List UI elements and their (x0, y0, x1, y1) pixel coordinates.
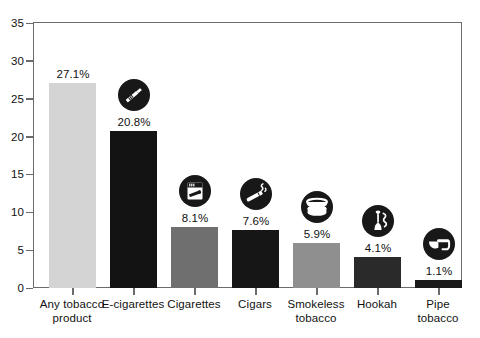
bar-value-label: 1.1% (407, 265, 471, 278)
y-axis-tick: 20 (0, 130, 33, 144)
x-axis-tick-mark (377, 288, 379, 295)
x-axis-label-line1: Hookah (357, 298, 397, 310)
bar-pipe-tobacco[interactable] (415, 280, 462, 288)
y-axis-tick-mark (26, 212, 33, 214)
smokeless-tin-icon (301, 191, 333, 223)
bar-cigars[interactable] (232, 230, 279, 288)
bar-smokeless-tobacco[interactable] (293, 243, 340, 288)
x-axis-label-pipe-tobacco: Pipetobacco (402, 297, 474, 325)
x-axis-label-line1: Any tobacco (40, 298, 104, 310)
x-axis-tick-mark (316, 288, 318, 295)
x-axis-label-line1: E-cigarettes (102, 298, 165, 310)
x-axis-label-line2: tobacco (402, 311, 474, 325)
y-axis-tick-label: 15 (11, 167, 24, 181)
x-axis-tick-mark (194, 288, 196, 295)
y-axis-tick: 5 (0, 243, 33, 257)
bar-group-any-tobacco-product: 27.1% (41, 23, 105, 288)
bar-group-cigarettes: 8.1% (163, 23, 227, 288)
bar-value-label: 27.1% (41, 68, 105, 81)
x-axis-tick-mark (72, 288, 74, 295)
bar-hookah[interactable] (354, 257, 401, 288)
x-axis-label-line1: Pipe (426, 298, 449, 310)
y-axis-tick-mark (26, 288, 33, 290)
x-axis-label-line1: Smokeless (287, 298, 344, 310)
bar-cigarettes[interactable] (171, 227, 218, 288)
bar-value-label: 7.6% (224, 215, 288, 228)
y-axis-tick-label: 25 (11, 92, 24, 106)
plot-area: 27.1% 20.8% 8.1% 7.6% 5.9 (34, 23, 461, 288)
bar-group-hookah: 4.1% (346, 23, 410, 288)
y-axis: 35302520151050 (0, 0, 33, 338)
hookah-icon (362, 205, 394, 237)
x-axis-tick-mark (133, 288, 135, 295)
y-axis-tick-mark (26, 98, 33, 100)
y-axis-tick-mark (26, 250, 33, 252)
x-axis-labels: Any tobaccoproductE-cigarettesCigarettes… (34, 297, 461, 337)
y-axis-tick: 10 (0, 205, 33, 219)
x-axis-tick-mark (438, 288, 440, 295)
cigar-icon (240, 178, 272, 210)
x-axis-label-line2: product (36, 311, 108, 325)
y-axis-tick-label: 35 (11, 16, 24, 30)
bar-group-pipe-tobacco: 1.1% (407, 23, 471, 288)
y-axis-tick-mark (26, 136, 33, 138)
x-axis-label-line1: Cigars (238, 298, 272, 310)
bar-value-label: 5.9% (285, 228, 349, 241)
bar-value-label: 8.1% (163, 212, 227, 225)
y-axis-tick-label: 10 (11, 205, 24, 219)
bar-value-label: 4.1% (346, 242, 410, 255)
x-axis-label-line1: Cigarettes (167, 298, 220, 310)
bar-any-tobacco-product[interactable] (49, 83, 96, 288)
y-axis-tick-mark (26, 23, 33, 25)
y-axis-tick: 30 (0, 54, 33, 68)
y-axis-tick: 15 (0, 167, 33, 181)
x-axis-label-line2: tobacco (280, 311, 352, 325)
x-axis-tick-mark (255, 288, 257, 295)
bar-group-smokeless-tobacco: 5.9% (285, 23, 349, 288)
y-axis-tick: 25 (0, 92, 33, 106)
bar-chart: 35302520151050 27.1% 20.8% 8.1% 7.6% (0, 0, 480, 338)
bar-group-e-cigarettes: 20.8% (102, 23, 166, 288)
bar-group-cigars: 7.6% (224, 23, 288, 288)
y-axis-tick-label: 5 (18, 243, 25, 257)
bar-value-label: 20.8% (102, 116, 166, 129)
y-axis-tick-mark (26, 174, 33, 176)
e-cigarette-icon (118, 79, 150, 111)
y-axis-tick: 0 (0, 281, 33, 295)
bar-e-cigarettes[interactable] (110, 131, 157, 288)
y-axis-tick-mark (26, 60, 33, 62)
y-axis-tick-label: 30 (11, 54, 24, 68)
y-axis-tick-label: 20 (11, 130, 24, 144)
cigarette-pack-icon (179, 175, 211, 207)
y-axis-tick-label: 0 (18, 281, 25, 295)
y-axis-tick: 35 (0, 16, 33, 30)
pipe-icon (423, 228, 455, 260)
